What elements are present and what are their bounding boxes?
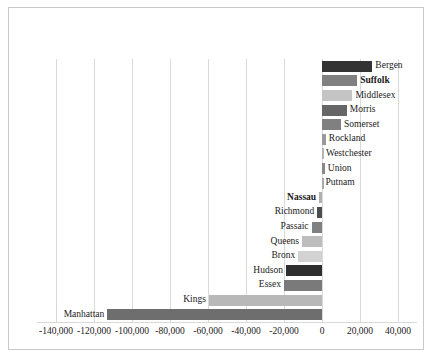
bar-richmond <box>317 207 322 218</box>
bar-union <box>322 163 325 174</box>
bar-label-hudson: Hudson <box>253 265 283 276</box>
chart-frame: BergenSuffolkMiddlesexMorrisSomersetRock… <box>8 7 424 350</box>
bar-label-middlesex: Middlesex <box>355 90 395 101</box>
bar-suffolk <box>322 75 357 86</box>
bar-somerset <box>322 119 341 130</box>
bar-label-bergen: Bergen <box>375 60 402 71</box>
bar-bronx <box>298 251 322 262</box>
bar-rockland <box>322 134 326 145</box>
x-tick-label-9: 40,000 <box>385 326 411 336</box>
bar-label-passaic: Passaic <box>281 221 309 232</box>
gridline-4 <box>208 59 209 322</box>
gridline-3 <box>170 59 171 322</box>
x-tick-label-5: -40,000 <box>231 326 260 336</box>
bar-manhattan <box>107 309 322 320</box>
bar-bergen <box>322 61 372 72</box>
x-tick-label-0: -140,000 <box>39 326 73 336</box>
bar-hudson <box>286 265 322 276</box>
gridline-2 <box>132 59 133 322</box>
bar-label-manhattan: Manhattan <box>64 309 105 320</box>
bar-label-somerset: Somerset <box>344 119 379 130</box>
bar-label-westchester: Westchester <box>326 148 372 159</box>
x-tick-label-7: 0 <box>320 326 325 336</box>
bar-label-queens: Queens <box>271 236 300 247</box>
bar-label-rockland: Rockland <box>329 133 365 144</box>
bar-middlesex <box>322 90 352 101</box>
gridline-0 <box>56 59 57 322</box>
bar-label-bronx: Bronx <box>272 250 296 261</box>
gridline-1 <box>94 59 95 322</box>
bar-label-kings: Kings <box>183 294 206 305</box>
bar-label-richmond: Richmond <box>275 206 315 217</box>
x-tick-label-6: -20,000 <box>269 326 298 336</box>
gridline-5 <box>246 59 247 322</box>
bar-westchester <box>322 148 324 159</box>
x-tick-label-8: 20,000 <box>347 326 373 336</box>
bar-label-suffolk: Suffolk <box>360 75 390 86</box>
bar-essex <box>284 280 322 291</box>
x-tick-label-4: -60,000 <box>193 326 222 336</box>
gridline-9 <box>398 59 399 322</box>
bar-passaic <box>312 222 322 233</box>
x-tick-label-3: -80,000 <box>155 326 184 336</box>
axis-baseline <box>37 322 417 323</box>
bar-label-morris: Morris <box>350 104 376 115</box>
bar-queens <box>302 236 322 247</box>
bar-label-essex: Essex <box>259 279 281 290</box>
bar-putnam <box>322 178 324 189</box>
x-tick-label-1: -120,000 <box>77 326 111 336</box>
x-tick-label-2: -100,000 <box>115 326 149 336</box>
plot-area: BergenSuffolkMiddlesexMorrisSomersetRock… <box>37 59 417 322</box>
bar-label-nassau: Nassau <box>287 192 316 203</box>
bar-kings <box>209 295 322 306</box>
bar-label-putnam: Putnam <box>326 177 355 188</box>
bar-nassau <box>319 192 322 203</box>
bar-label-union: Union <box>328 163 352 174</box>
bar-morris <box>322 105 347 116</box>
x-axis-tick-labels: -140,000-120,000-100,000-80,000-60,000-4… <box>37 326 417 342</box>
